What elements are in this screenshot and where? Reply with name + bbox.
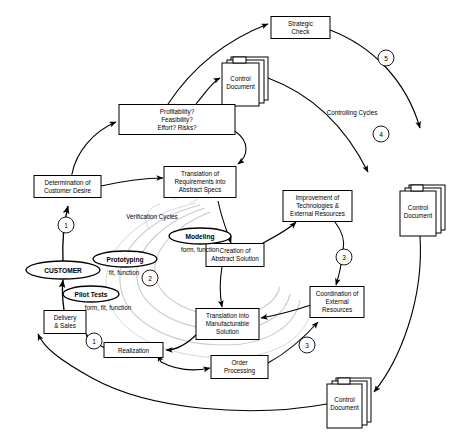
order-line2: Processing — [224, 367, 256, 375]
label-verification-cycles: Verification Cycles — [126, 213, 177, 221]
coordination-line3: Resources — [322, 306, 352, 313]
improvement-line3: External Resources — [290, 210, 345, 217]
improvement-line1: Improvement of — [296, 194, 340, 202]
node-realization[interactable]: Realization — [104, 343, 163, 358]
control-document-top-line1: Control — [230, 75, 250, 82]
strategic-check-line2: Check — [292, 28, 311, 35]
cycle-marker-1-bottom: 1 — [86, 333, 102, 349]
modeling-sub: form, function — [181, 246, 220, 253]
control-document-top-line2: Document — [226, 83, 255, 90]
node-strategic-check[interactable]: Strategic Check — [271, 17, 330, 39]
profitability-line1: Profitability? — [160, 108, 195, 116]
cycle-marker-2-label: 2 — [148, 275, 152, 282]
node-coordination-external-resources[interactable]: Coordination of External Resources — [310, 287, 364, 318]
strategic-check-line1: Strategic — [288, 20, 313, 28]
cycle-marker-5-label: 5 — [384, 55, 388, 62]
customer-label: CUSTOMER — [44, 267, 82, 274]
node-customer[interactable]: CUSTOMER — [26, 261, 100, 279]
modeling-label: Modeling — [186, 233, 215, 241]
control-document-bottom-line1: Control — [334, 396, 354, 403]
creation-line1: Creation of — [220, 247, 251, 254]
process-cycle-diagram: Strategic Check Control Document Control… — [0, 0, 458, 435]
label-controlling-cycles: Controlling Cycles — [327, 109, 378, 117]
coordination-line2: External — [325, 298, 348, 305]
pilot-tests-sub: form, fit, function — [85, 304, 132, 311]
cycle-marker-1-top-label: 1 — [64, 222, 68, 229]
realization-label: Realization — [118, 347, 150, 354]
cycle-marker-4-label: 4 — [379, 131, 383, 138]
delivery-line2: & Sales — [54, 322, 76, 329]
translation-req-line2: Requirements into — [174, 178, 226, 186]
translation-manu-line2: Manufacturable — [206, 320, 250, 327]
translation-manu-line1: Translation into — [206, 312, 249, 319]
profitability-line2: Feasibility? — [161, 116, 193, 124]
translation-manu-line3: Solution — [216, 328, 239, 335]
node-control-document-top[interactable]: Control Document — [222, 57, 268, 106]
cycle-marker-1-bottom-label: 1 — [92, 338, 96, 345]
prototyping-sub: fit, function — [109, 269, 140, 276]
coordination-line1: Coordination of — [316, 290, 359, 297]
node-control-document-bottom[interactable]: Control Document — [327, 378, 371, 428]
node-improvement-technologies[interactable]: Improvement of Technologies & External R… — [283, 191, 352, 222]
cycle-marker-5: 5 — [378, 50, 394, 66]
determination-line2: Customer Desire — [44, 187, 92, 194]
cycle-marker-4: 4 — [373, 126, 389, 142]
creation-line2: Abstract Solution — [211, 255, 259, 262]
determination-line1: Determination of — [44, 179, 90, 186]
control-document-right-line2: Document — [404, 212, 433, 219]
profitability-line3: Effort? Risks? — [157, 124, 197, 131]
improvement-line2: Technologies & — [296, 202, 340, 210]
cycle-marker-3-upper: 3 — [336, 249, 352, 265]
delivery-line1: Delivery — [54, 314, 78, 322]
order-line1: Order — [231, 359, 247, 366]
node-delivery-sales[interactable]: Delivery & Sales — [44, 311, 86, 334]
node-translation-manufacturable[interactable]: Translation into Manufacturable Solution — [196, 309, 259, 340]
cycle-marker-1-top: 1 — [58, 217, 74, 233]
cycle-marker-3-lower: 3 — [299, 337, 315, 353]
prototyping-label: Prototyping — [107, 256, 144, 264]
node-profitability[interactable]: Profitability? Feasibility? Effort? Risk… — [119, 105, 235, 135]
translation-req-line1: Translation of — [181, 170, 219, 177]
pilot-tests-label: Pilot Tests — [75, 291, 108, 298]
control-document-bottom-line2: Document — [330, 404, 359, 411]
node-determination-customer-desire[interactable]: Determination of Customer Desire — [34, 176, 101, 198]
cycle-marker-3-upper-label: 3 — [342, 254, 346, 261]
translation-req-line3: Abstract Specs — [179, 186, 221, 194]
node-order-processing[interactable]: Order Processing — [211, 356, 268, 379]
node-translation-requirements[interactable]: Translation of Requirements into Abstrac… — [164, 167, 236, 198]
cycle-marker-2: 2 — [142, 270, 158, 286]
control-document-right-line1: Control — [408, 204, 428, 211]
node-control-document-right[interactable]: Control Document — [400, 185, 445, 236]
cycle-marker-3-lower-label: 3 — [305, 342, 309, 349]
